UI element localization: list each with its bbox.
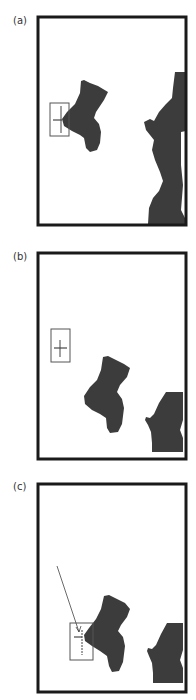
figure-silhouette-c xyxy=(147,623,183,683)
figure-svg xyxy=(0,0,196,700)
figure-silhouette-a xyxy=(144,72,186,224)
arrow-head-c xyxy=(76,626,81,632)
panel-a xyxy=(38,17,186,225)
figure-silhouette-b xyxy=(145,392,183,452)
stocking-silhouette-b xyxy=(84,356,130,433)
arrow-line-c xyxy=(57,566,79,632)
panel-c xyxy=(38,484,186,692)
panel-b xyxy=(38,253,186,459)
